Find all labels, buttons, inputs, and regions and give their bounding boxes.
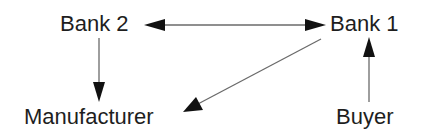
node-manufacturer: Manufacturer (24, 106, 154, 128)
node-buyer: Buyer (336, 106, 393, 128)
arrowhead-up-icon (363, 37, 375, 57)
edge-buyer-bank1 (363, 37, 375, 102)
arrowhead-right-icon (305, 19, 326, 31)
edge-bank2-bank1 (144, 19, 326, 31)
arrowhead-left-icon (144, 19, 165, 31)
arrowhead-down-icon (93, 82, 105, 102)
edge-bank1-manufacturer (183, 39, 321, 112)
diagram-canvas: Bank 2 Bank 1 Manufacturer Buyer (0, 0, 423, 140)
node-bank-1: Bank 1 (330, 13, 399, 35)
edge-bank2-manufacturer (93, 38, 105, 102)
arrowhead-diagonal-icon (183, 97, 203, 112)
node-bank-2: Bank 2 (60, 13, 129, 35)
